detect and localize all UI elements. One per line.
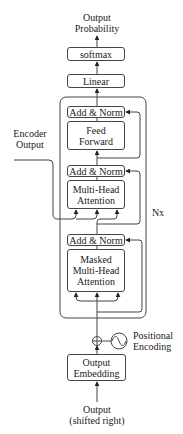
feed-forward-line1: Feed xyxy=(86,125,105,136)
add-norm-top-box: Add & Norm xyxy=(67,106,125,118)
output-embedding-box: Output Embedding xyxy=(67,354,126,381)
linear-box: Linear xyxy=(67,74,125,88)
encoder-output-line2: Output xyxy=(8,139,52,150)
feed-forward-line2: Forward xyxy=(79,136,113,147)
feed-forward-box: Feed Forward xyxy=(67,121,125,150)
softmax-box: softmax xyxy=(67,47,125,61)
mha-line2: Attention xyxy=(77,195,115,206)
mha-line1: Multi-Head xyxy=(73,184,120,195)
masked-mha-line3: Attention xyxy=(77,276,115,287)
output-probability-line1: Output xyxy=(72,12,122,23)
masked-mha-line2: Multi-Head xyxy=(73,265,120,276)
input-label: Output (shifted right) xyxy=(62,404,132,426)
positional-encoding-line2: Encoding xyxy=(133,341,175,352)
output-probability-line2: Probability xyxy=(72,23,122,34)
positional-encoding-label: Positional Encoding xyxy=(133,330,175,352)
input-label-line2: (shifted right) xyxy=(62,415,132,426)
linear-label: Linear xyxy=(83,76,109,87)
masked-mha-line1: Masked xyxy=(80,254,112,265)
output-embedding-line1: Output xyxy=(83,357,111,368)
nx-text: Nx xyxy=(152,207,164,218)
encoder-output-label: Encoder Output xyxy=(8,128,52,150)
multi-head-attention-box: Multi-Head Attention xyxy=(67,180,125,209)
nx-label: Nx xyxy=(149,207,167,218)
softmax-label: softmax xyxy=(80,49,112,60)
output-embedding-line2: Embedding xyxy=(73,368,119,379)
add-norm-bottom-box: Add & Norm xyxy=(67,234,125,246)
encoder-output-line1: Encoder xyxy=(8,128,52,139)
input-label-line1: Output xyxy=(62,404,132,415)
add-norm-mid-label: Add & Norm xyxy=(69,166,122,177)
add-norm-top-label: Add & Norm xyxy=(69,107,122,118)
output-probability-label: Output Probability xyxy=(72,12,122,34)
add-norm-mid-box: Add & Norm xyxy=(67,165,125,177)
masked-multi-head-attention-box: Masked Multi-Head Attention xyxy=(67,249,125,292)
add-norm-bottom-label: Add & Norm xyxy=(69,235,122,246)
positional-encoding-line1: Positional xyxy=(133,330,175,341)
